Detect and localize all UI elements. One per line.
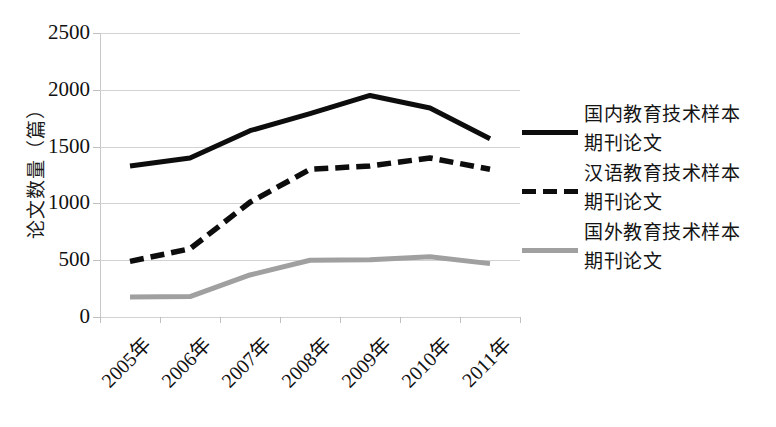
x-axis-tick	[460, 317, 461, 323]
plot-area	[100, 33, 520, 317]
y-axis-tick-label: 500	[28, 249, 90, 270]
legend-entry[interactable]: 国内教育技术样本期刊论文	[518, 104, 776, 163]
legend-label-line-1: 汉语教育技术样本	[584, 159, 774, 188]
y-axis-tick-label: 2500	[28, 22, 90, 43]
x-axis-tick	[400, 317, 401, 323]
legend-label-line-2: 期刊论文	[584, 188, 774, 217]
x-axis-tick	[100, 317, 101, 323]
legend-entry[interactable]: 汉语教育技术样本期刊论文	[518, 163, 776, 222]
legend-label: 国外教育技术样本期刊论文	[584, 218, 774, 276]
series-line	[130, 257, 490, 297]
x-axis-tick	[340, 317, 341, 323]
gridline	[100, 317, 520, 318]
series-line	[130, 158, 490, 261]
y-axis-tick	[93, 90, 100, 91]
y-axis-tick	[93, 203, 100, 204]
y-axis-tick-label: 0	[28, 306, 90, 327]
legend-label-line-1: 国外教育技术样本	[584, 218, 774, 247]
chart-legend: 国内教育技术样本期刊论文汉语教育技术样本期刊论文国外教育技术样本期刊论文	[518, 104, 776, 281]
legend-label-line-1: 国内教育技术样本	[584, 100, 774, 129]
legend-marker-2	[522, 189, 578, 194]
legend-marker-1	[522, 130, 578, 135]
x-axis-tick	[520, 317, 521, 323]
x-axis-tick	[160, 317, 161, 323]
legend-label-line-2: 期刊论文	[584, 129, 774, 158]
y-axis-tick-label: 1000	[28, 192, 90, 213]
y-axis-tick	[93, 147, 100, 148]
x-axis-tick	[220, 317, 221, 323]
legend-label-line-2: 期刊论文	[584, 247, 774, 276]
x-axis-tick	[280, 317, 281, 323]
legend-marker-3	[522, 248, 578, 253]
legend-label: 汉语教育技术样本期刊论文	[584, 159, 774, 217]
y-axis-tick-label: 1500	[28, 136, 90, 157]
series-lines	[100, 33, 520, 317]
y-axis-tick	[93, 317, 100, 318]
series-line	[130, 95, 490, 165]
y-axis-tick-label: 2000	[28, 79, 90, 100]
y-axis-tick	[93, 33, 100, 34]
legend-label: 国内教育技术样本期刊论文	[584, 100, 774, 158]
legend-entry[interactable]: 国外教育技术样本期刊论文	[518, 222, 776, 281]
y-axis-tick-labels: 05001000150020002500	[28, 0, 90, 427]
chart-page: 论文数量（篇） 05001000150020002500 2005年2006年2…	[0, 0, 776, 427]
y-axis-tick	[93, 260, 100, 261]
